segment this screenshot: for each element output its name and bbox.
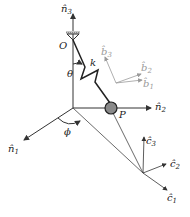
phi-arc [58,118,80,124]
n2-label: n̂2 [155,101,166,114]
c3-label: ĉ3 [146,135,157,148]
pendulum-diagram: n̂3 O n̂2 n̂1 ϕ θ k P b̂3 b̂2 b̂1 ĉ3 ĉ [0,0,190,217]
phi-label: ϕ [64,126,71,137]
origin-to-c-line [73,108,143,173]
point-label: P [118,109,126,120]
origin-label: O [59,40,67,51]
c2-label: ĉ2 [170,158,181,171]
mass-p [105,102,117,114]
b-frame [105,57,142,83]
b3-label: b̂3 [101,45,112,59]
b1-label: b̂1 [143,77,154,91]
n3-label: n̂3 [61,3,72,16]
p-to-c-line [113,113,143,173]
spring-label: k [90,57,96,68]
theta-label: θ [67,68,73,79]
c1-label: ĉ1 [167,192,177,205]
n1-label: n̂1 [8,143,19,156]
b2-label: b̂2 [141,61,152,75]
theta-arc [73,63,82,64]
